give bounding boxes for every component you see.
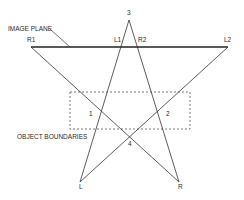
label-r2: R2: [138, 37, 146, 44]
label-r1: R1: [27, 37, 35, 44]
object-boundaries-label: OBJECT BOUNDARIES: [17, 134, 87, 141]
ray-r1-to-r: [31, 47, 179, 182]
label-point-r: R: [178, 184, 183, 191]
label-region-4: 4: [128, 141, 132, 148]
ray-l2-to-l: [80, 47, 228, 182]
label-point-l: L: [79, 184, 83, 191]
label-l1: L1: [114, 37, 121, 44]
image-plane-leader: [50, 29, 70, 47]
ray-apex-to-r: [129, 20, 179, 182]
label-apex-3: 3: [127, 10, 131, 17]
ray-apex-to-l: [80, 20, 129, 182]
label-l2: L2: [224, 37, 231, 44]
label-region-2: 2: [166, 111, 170, 118]
label-region-1: 1: [89, 111, 93, 118]
image-plane-label: IMAGE PLANE: [8, 26, 52, 33]
